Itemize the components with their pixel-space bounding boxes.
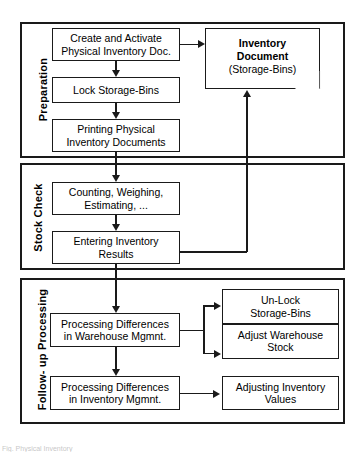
figure-caption: Fig. Physical Inventory (2, 445, 72, 452)
node-counting-weighing[interactable]: Counting, Weighing, Estimating, ... (52, 182, 180, 215)
connector-counting-to-entering (115, 215, 117, 224)
arrowhead-split-to-unlock (214, 302, 221, 310)
node-create-activate[interactable]: Create and Activate Physical Inventory D… (52, 28, 180, 61)
connector-proc-warehouse-stub (180, 330, 204, 332)
node-proc-warehouse-line1: Processing Differences (61, 318, 169, 331)
connector-proc-warehouse-split (203, 305, 205, 354)
arrowhead-counting-to-entering (112, 224, 120, 231)
connector-entering-to-proc-warehouse (115, 264, 117, 306)
node-create-activate-line1: Create and Activate (61, 32, 171, 45)
node-printing-documents-line2: Inventory Documents (66, 136, 165, 149)
node-create-activate-line2: Physical Inventory Doc. (61, 45, 171, 58)
connector-entering-to-riser (180, 251, 247, 253)
phase-label-stock-check: Stock Check (33, 168, 44, 268)
node-adjust-warehouse-stock[interactable]: Adjust Warehouse Stock (222, 324, 339, 359)
node-entering-results[interactable]: Entering Inventory Results (52, 231, 180, 264)
connector-proc-inventory-to-adjust-values (180, 393, 214, 395)
arrowhead-split-to-adjust-stock (214, 350, 221, 358)
node-lock-bins[interactable]: Lock Storage-Bins (52, 77, 180, 103)
node-unlock-storage-bins[interactable]: Un-Lock Storage-Bins (222, 289, 339, 324)
node-adjust-stock-line1: Adjust Warehouse (238, 329, 323, 342)
node-lock-bins-line1: Lock Storage-Bins (73, 84, 159, 97)
node-processing-warehouse[interactable]: Processing Differences in Warehouse Mgmn… (50, 313, 180, 347)
arrowhead-create-to-lock (112, 70, 120, 77)
arrowhead-proc-warehouse-to-proc-inventory (112, 369, 120, 376)
node-adjust-stock-line2: Stock (238, 341, 323, 354)
node-printing-documents[interactable]: Printing Physical Inventory Documents (52, 119, 180, 152)
phase-label-follow-up: Follow- up Processing (37, 285, 48, 415)
node-proc-inventory-line1: Processing Differences (61, 381, 169, 394)
node-adjust-values-line1: Adjusting Inventory (236, 381, 325, 394)
node-unlock-line1: Un-Lock (250, 294, 311, 307)
node-proc-inventory-line2: in Inventory Mgmnt. (61, 393, 169, 406)
document-line1: Inventory (239, 37, 286, 50)
connector-lock-to-printing (115, 103, 117, 112)
node-entering-line2: Results (73, 248, 158, 261)
node-entering-line1: Entering Inventory (73, 235, 158, 248)
connector-create-to-document (180, 44, 199, 46)
arrowhead-printing-to-counting (112, 175, 120, 182)
node-adjusting-inventory-values[interactable]: Adjusting Inventory Values (222, 376, 339, 410)
inventory-document-shape[interactable]: Inventory Document (Storage-Bins) (205, 28, 320, 89)
phase-label-preparation: Preparation (38, 40, 49, 140)
node-processing-inventory[interactable]: Processing Differences in Inventory Mgmn… (50, 376, 180, 410)
arrowhead-lock-to-printing (112, 112, 120, 119)
document-line2: Document (237, 50, 288, 63)
arrowhead-riser-to-document (243, 90, 251, 97)
connector-riser-to-document (246, 97, 248, 252)
connector-create-to-lock (115, 61, 117, 70)
connector-proc-warehouse-to-proc-inventory (115, 347, 117, 369)
node-counting-line1: Counting, Weighing, (69, 186, 163, 199)
connector-printing-to-counting (115, 152, 117, 175)
document-line3: (Storage-Bins) (229, 63, 297, 76)
node-unlock-line2: Storage-Bins (250, 307, 311, 320)
node-proc-warehouse-line2: in Warehouse Mgmnt. (61, 330, 169, 343)
arrowhead-entering-to-proc-warehouse (112, 306, 120, 313)
node-printing-documents-line1: Printing Physical (66, 123, 165, 136)
arrowhead-proc-inventory-to-adjust-values (213, 390, 220, 398)
node-counting-line2: Estimating, ... (69, 199, 163, 212)
node-adjust-values-line2: Values (236, 393, 325, 406)
arrowhead-create-to-document (198, 40, 205, 48)
document-text: Inventory Document (Storage-Bins) (205, 28, 320, 89)
